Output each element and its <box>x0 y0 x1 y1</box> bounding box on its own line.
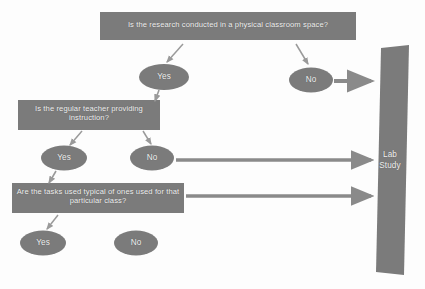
answer-ellipse-q2-no <box>130 146 174 171</box>
edge-q3-to-yes <box>47 215 58 229</box>
edge-q1-to-no <box>296 44 308 64</box>
edge-q1yes-to-q2 <box>155 90 159 101</box>
terminal-lab-study-shape <box>376 45 409 275</box>
answer-ellipse-q3-no <box>114 231 158 256</box>
answer-ellipse-q2-yes <box>41 146 87 171</box>
edge-q2-to-yes <box>70 131 82 145</box>
answer-ellipse-q1-yes <box>139 64 189 90</box>
edge-q2-to-no <box>143 131 151 144</box>
decision-box-q2 <box>18 100 160 130</box>
edge-q2yes-to-q3 <box>49 171 56 183</box>
flowchart-graphics <box>0 0 425 289</box>
decision-box-q1 <box>100 12 356 40</box>
answer-ellipse-q3-yes <box>20 231 66 256</box>
answer-ellipse-q1-no <box>289 68 333 93</box>
decision-box-q3 <box>12 183 184 213</box>
edge-q1-to-yes <box>167 44 183 62</box>
flowchart-canvas: Is the research conducted in a physical … <box>0 0 425 289</box>
